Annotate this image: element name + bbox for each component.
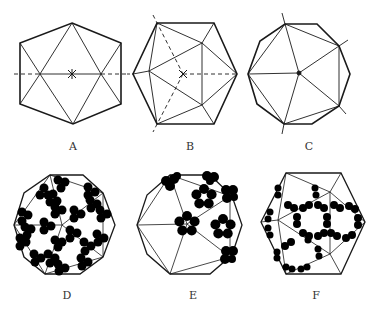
- panel-f: [248, 150, 378, 309]
- capsid-pentamer-diagram: [125, 150, 250, 309]
- panel-d-label: D: [57, 289, 77, 302]
- icosahedron-3fold-diagram: [125, 0, 250, 150]
- panel-c: [240, 0, 378, 150]
- panel-e: [125, 150, 250, 309]
- panel-a: [0, 0, 126, 150]
- panel-e-label: E: [183, 289, 203, 302]
- capsid-trimer-diagram: [0, 150, 126, 309]
- panel-f-label: F: [306, 289, 326, 302]
- icosahedron-5fold-diagram: [240, 0, 378, 150]
- icosahedron-2fold-diagram: [0, 0, 126, 150]
- panel-b: [125, 0, 250, 150]
- capsid-dimer-diagram: [248, 150, 378, 309]
- panel-d: [0, 150, 126, 309]
